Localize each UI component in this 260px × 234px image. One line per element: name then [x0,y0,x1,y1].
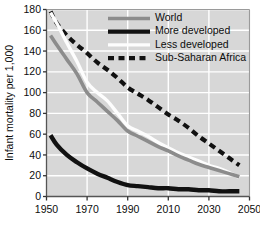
y-tick-label: 0 [35,190,41,202]
y-axis-title: Infant mortality per 1,000 [3,45,15,161]
x-tick-label: 1950 [35,203,59,215]
y-tick-label: 100 [23,86,41,98]
legend-label-less-developed: Less developed [155,38,229,50]
y-tick-label: 20 [29,169,41,181]
y-tick-label: 160 [23,24,41,36]
chart-svg: 0204060801001201401601801950197019902010… [0,0,260,234]
x-tick-label: 2050 [238,203,260,215]
infant-mortality-chart: 0204060801001201401601801950197019902010… [0,0,260,234]
x-tick-label: 1990 [116,203,140,215]
y-tick-label: 80 [29,107,41,119]
x-tick-label: 2030 [197,203,221,215]
y-tick-label: 140 [23,45,41,57]
x-tick-label: 2010 [157,203,181,215]
y-tick-label: 40 [29,149,41,161]
legend-label-world: World [155,11,182,23]
x-tick-label: 1970 [75,203,99,215]
y-tick-label: 60 [29,128,41,140]
legend-label-more-developed: More developed [155,24,230,36]
y-tick-label: 120 [23,65,41,77]
y-tick-label: 180 [23,3,41,15]
legend-label-sub-saharan-africa: Sub-Saharan Africa [155,51,246,63]
